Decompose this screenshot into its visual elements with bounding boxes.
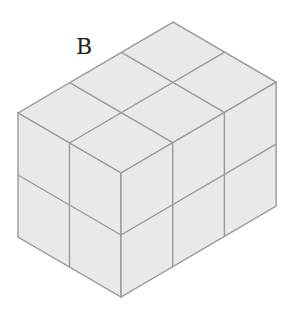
- figure-label: B: [76, 36, 92, 58]
- cube-block-drawing: [0, 0, 293, 312]
- cube-block-figure: B: [0, 0, 293, 312]
